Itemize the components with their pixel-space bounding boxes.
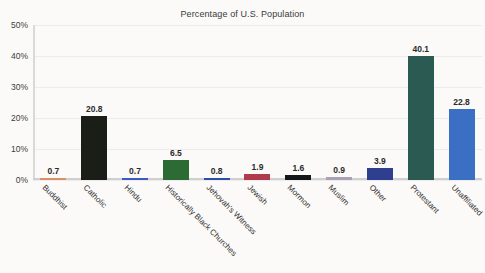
bar[interactable]: [163, 160, 189, 180]
bar[interactable]: [244, 174, 270, 180]
y-axis-tick-label: 40%: [11, 51, 28, 61]
chart-title: Percentage of U.S. Population: [0, 9, 485, 19]
bar-slot[interactable]: 0.9: [319, 25, 360, 180]
bar-value-label: 3.9: [374, 156, 386, 166]
x-axis-label: Unaffiliated: [449, 183, 484, 218]
bar-value-label: 0.9: [333, 165, 345, 175]
x-axis-label: Other: [368, 183, 389, 204]
y-axis-tick-label: 20%: [11, 113, 28, 123]
x-axis-label: Catholic: [82, 183, 109, 210]
bar[interactable]: [122, 178, 148, 181]
bar-slot[interactable]: 0.8: [196, 25, 237, 180]
bar-slot[interactable]: 6.5: [155, 25, 196, 180]
bar-chart: Percentage of U.S. Population 0%10%20%30…: [0, 0, 485, 273]
bar[interactable]: [367, 168, 393, 180]
bar-slot[interactable]: 3.9: [360, 25, 401, 180]
bar-slot[interactable]: 0.7: [115, 25, 156, 180]
y-axis-tick-label: 0%: [16, 175, 28, 185]
bar[interactable]: [40, 178, 66, 181]
x-axis-label: Jewish: [245, 183, 269, 207]
bar-value-label: 20.8: [86, 104, 103, 114]
bar-value-label: 6.5: [170, 148, 182, 158]
bar-value-label: 22.8: [453, 97, 470, 107]
bar[interactable]: [408, 56, 434, 180]
bar-value-label: 0.7: [129, 166, 141, 176]
bar-value-label: 1.9: [252, 162, 264, 172]
bar-slot[interactable]: 1.6: [278, 25, 319, 180]
x-axis-label: Historically Black Churches: [163, 183, 238, 258]
x-axis-label: Muslim: [327, 183, 351, 207]
bar-slot[interactable]: 22.8: [441, 25, 482, 180]
bar-slot[interactable]: 20.8: [74, 25, 115, 180]
bar-value-label: 40.1: [412, 44, 429, 54]
bar[interactable]: [449, 109, 475, 180]
y-axis-tick-label: 50%: [11, 20, 28, 30]
gridline: [33, 180, 482, 181]
bar[interactable]: [326, 177, 352, 180]
y-axis-tick-label: 10%: [11, 144, 28, 154]
bar[interactable]: [81, 116, 107, 180]
x-axis-label: Buddhist: [41, 183, 69, 211]
bar-value-label: 1.6: [292, 163, 304, 173]
bar[interactable]: [285, 175, 311, 180]
bar-value-label: 0.7: [47, 166, 59, 176]
bar-slot[interactable]: 40.1: [400, 25, 441, 180]
bar[interactable]: [204, 178, 230, 181]
x-axis-label: Mormon: [286, 183, 313, 210]
x-axis-category-labels: BuddhistCatholicHinduHistorically Black …: [33, 183, 482, 273]
x-axis-label: Hindu: [123, 183, 144, 204]
bar-value-label: 0.8: [211, 166, 223, 176]
plot-area: 0%10%20%30%40%50% 0.720.80.76.50.81.91.6…: [33, 25, 482, 180]
bar-slot[interactable]: 0.7: [33, 25, 74, 180]
bar-series: 0.720.80.76.50.81.91.60.93.940.122.8: [33, 25, 482, 180]
x-axis-label: Protestant: [408, 183, 440, 215]
y-axis-tick-label: 30%: [11, 82, 28, 92]
bar-slot[interactable]: 1.9: [237, 25, 278, 180]
